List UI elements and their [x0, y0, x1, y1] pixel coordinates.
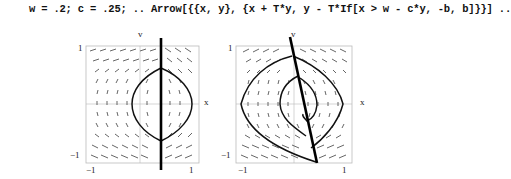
right-x-tick-left: −1 [238, 165, 248, 175]
right-y-tick-bottom: −1 [221, 150, 231, 160]
right-v-axis-label: v [291, 29, 296, 39]
left-x-axis-label: x [204, 97, 209, 107]
right-plot [236, 37, 352, 163]
left-plot [86, 38, 199, 170]
right-y-tick-top: 1 [228, 43, 233, 53]
left-y-tick-bottom: −1 [70, 150, 80, 160]
left-y-tick-top: 1 [78, 43, 83, 53]
left-x-tick-right: 1 [189, 165, 194, 175]
left-x-tick-left: −1 [86, 165, 96, 175]
left-v-axis-label: v [138, 29, 143, 39]
right-x-tick-right: 1 [342, 165, 347, 175]
right-x-axis-label: x [360, 97, 365, 107]
